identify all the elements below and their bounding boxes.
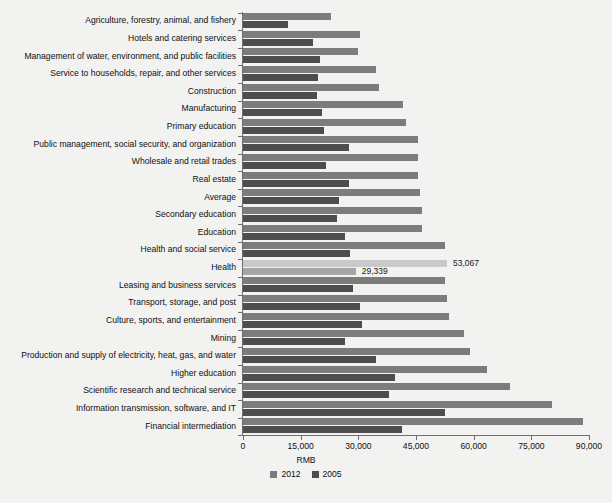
x-axis-tick [474,435,475,440]
y-axis-tick [238,435,242,436]
bar-2005 [243,426,402,433]
y-axis-label: Primary education [167,121,236,131]
bar-group [243,330,589,348]
y-axis-tick [238,189,242,190]
y-axis-tick [238,136,242,137]
bar-2012 [243,136,418,143]
y-axis-tick [238,48,242,49]
bar-2005 [243,21,288,28]
y-axis-label: Health and social service [140,244,236,254]
bar-2005 [243,374,395,381]
y-axis-tick [238,206,242,207]
bar-group [243,13,589,31]
bar-group [243,189,589,207]
y-axis-label: Financial intermediation [145,421,236,431]
bar-2005 [243,285,353,292]
chart-figure: Agriculture, forestry, animal, and fishe… [0,0,612,503]
bar-group [243,418,589,436]
bar-group [243,48,589,66]
legend-label-2012: 2012 [281,469,300,479]
x-axis-tick [243,435,244,440]
x-axis-tick-label: 75,000 [518,441,544,451]
bar-group [243,383,589,401]
bar-2005 [243,74,318,81]
bar-2012 [243,330,464,337]
y-axis-tick [238,242,242,243]
bar-group [243,295,589,313]
bar-2005 [243,109,322,116]
bar-2005 [243,233,345,240]
y-axis-label: Wholesale and retail trades [132,156,236,166]
bar-2005 [243,180,349,187]
bar-2005 [243,92,317,99]
bar-group: 53,06729,339 [243,260,589,278]
bar-group [243,66,589,84]
y-axis-label: Leasing and business services [119,280,236,290]
y-axis-label: Management of water, environment, and pu… [24,51,236,61]
bar-group [243,31,589,49]
bar-2012 [243,48,358,55]
bar-2012 [243,401,552,408]
y-axis-label: Production and supply of electricity, he… [21,350,236,360]
y-axis-tick [238,154,242,155]
bar-value-label-2005: 29,339 [362,267,388,276]
bar-2012 [243,348,470,355]
y-axis-label: Mining [211,333,236,343]
y-axis-tick [238,347,242,348]
x-axis-tick-label: 0 [241,441,246,451]
x-axis-tick [531,435,532,440]
y-axis-label: Hotels and catering services [128,33,236,43]
x-axis-tick [589,435,590,440]
bar-2012 [243,260,447,267]
x-axis-tick-label: 90,000 [576,441,602,451]
bar-2012 [243,84,379,91]
bar-group [243,225,589,243]
x-axis-tick [416,435,417,440]
bar-2005 [243,356,376,363]
legend-swatch-2012 [270,471,277,478]
y-axis-tick [238,118,242,119]
y-axis-tick [238,383,242,384]
bar-2012 [243,13,331,20]
bar-group [243,277,589,295]
bar-2012 [243,366,487,373]
bar-2012 [243,31,360,38]
y-axis-label: Real estate [193,174,236,184]
bar-group [243,366,589,384]
y-axis-tick [238,171,242,172]
bar-2012 [243,313,449,320]
bar-2005 [243,39,313,46]
x-axis-tick-label: 15,000 [288,441,314,451]
bar-2005 [243,338,345,345]
bar-2005 [243,391,389,398]
y-axis-tick [238,400,242,401]
x-axis-tick [358,435,359,440]
y-axis-tick [238,259,242,260]
y-axis-tick [238,83,242,84]
bar-group [243,242,589,260]
bar-2012 [243,225,422,232]
y-axis-label: Secondary education [155,209,236,219]
x-axis-tick-label: 30,000 [345,441,371,451]
bar-2005 [243,409,445,416]
y-axis-labels: Agriculture, forestry, animal, and fishe… [0,0,236,503]
bar-group [243,348,589,366]
y-axis-tick [238,277,242,278]
bar-value-label-2012: 53,067 [453,259,479,268]
y-axis-label: Culture, sports, and entertainment [106,315,236,325]
bar-2012 [243,119,406,126]
bar-group [243,207,589,225]
y-axis-label: Information transmission, software, and … [76,403,236,413]
y-axis-label: Agriculture, forestry, animal, and fishe… [85,15,236,25]
y-axis-label: Public management, social security, and … [34,139,236,149]
bar-2012 [243,66,376,73]
bar-group [243,401,589,419]
bar-2005 [243,321,362,328]
y-axis-label: Education [198,227,236,237]
bar-2005 [243,303,360,310]
y-axis-label: Health [211,262,236,272]
bar-2012 [243,189,420,196]
bar-2012 [243,418,583,425]
bar-2005 [243,215,337,222]
bar-2005 [243,268,356,275]
